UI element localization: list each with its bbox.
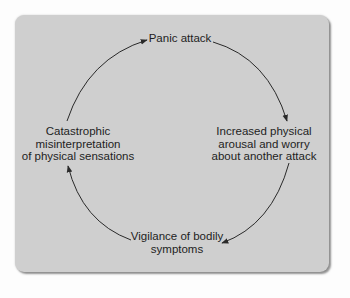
node-misinterpretation-line-1: Catastrophic	[22, 125, 135, 138]
node-arousal-line-1: Increased physical	[212, 125, 317, 138]
node-panic-line-1: Panic attack	[149, 32, 212, 45]
node-arousal-line-2: arousal and worry	[212, 138, 317, 151]
node-increased-arousal: Increased physical arousal and worry abo…	[212, 125, 317, 163]
node-vigilance: Vigilance of bodily symptoms	[131, 230, 224, 255]
arrow-panic-to-arousal	[213, 42, 287, 121]
node-catastrophic-misinterpretation: Catastrophic misinterpretation of physic…	[22, 125, 135, 163]
node-misinterpretation-line-2: misinterpretation	[22, 138, 135, 151]
node-vigilance-line-1: Vigilance of bodily	[131, 230, 224, 243]
node-arousal-line-3: about another attack	[212, 150, 317, 163]
arrow-vigilance-to-misinterpretation	[68, 166, 131, 240]
arrow-arousal-to-vigilance	[222, 163, 289, 243]
arrow-misinterpretation-to-panic	[67, 40, 147, 121]
node-vigilance-line-2: symptoms	[131, 243, 224, 256]
node-panic-attack: Panic attack	[149, 32, 212, 45]
node-misinterpretation-line-3: of physical sensations	[22, 150, 135, 163]
